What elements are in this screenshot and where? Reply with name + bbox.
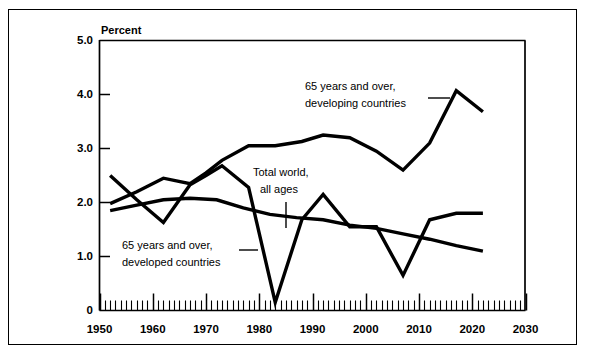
annotation-developing-countries: 65 years and over, developing countries: [305, 80, 450, 109]
x-axis-ticks: [101, 294, 527, 311]
total-world-label-line1: Total world,: [253, 166, 309, 178]
x-tick-label: 2030: [513, 323, 539, 335]
x-tick-label: 2000: [353, 323, 379, 335]
chart-series-group: [110, 91, 483, 303]
x-tick-label: 1960: [140, 323, 166, 335]
total-world-label-line2: all ages: [260, 183, 298, 195]
figure-container: 5.0 4.0 3.0 2.0 1.0 0 Percent 1950196019…: [0, 0, 591, 360]
annotation-developed-countries: 65 years and over, developed countries: [122, 239, 258, 268]
y-tick-label-2: 2.0: [77, 196, 93, 208]
y-axis-ticks: [100, 95, 111, 257]
developed-countries-label-line2: developed countries: [122, 256, 221, 268]
x-tick-label: 1970: [193, 323, 219, 335]
x-axis-tick-labels: 195019601970198019902000201020202030: [87, 323, 539, 335]
x-tick-label: 1990: [300, 323, 326, 335]
developing-countries-label-line1: 65 years and over,: [305, 80, 396, 92]
y-tick-label-4: 4.0: [77, 88, 93, 100]
x-tick-label: 1950: [87, 323, 113, 335]
y-tick-label-0: 0: [87, 304, 93, 316]
developing-countries-label-line2: developing countries: [305, 97, 406, 109]
y-axis-tick-labels: 5.0 4.0 3.0 2.0 1.0 0: [77, 34, 93, 316]
y-tick-label-1: 1.0: [77, 250, 93, 262]
x-tick-label: 2020: [459, 323, 485, 335]
line-chart: 5.0 4.0 3.0 2.0 1.0 0 Percent 1950196019…: [0, 0, 591, 360]
x-tick-label: 1980: [246, 323, 272, 335]
x-tick-label: 2010: [406, 323, 432, 335]
y-tick-label-3: 3.0: [77, 142, 93, 154]
y-tick-label-5: 5.0: [77, 34, 93, 46]
y-axis-unit-label: Percent: [101, 24, 142, 36]
developed-countries-label-line1: 65 years and over,: [122, 239, 213, 251]
